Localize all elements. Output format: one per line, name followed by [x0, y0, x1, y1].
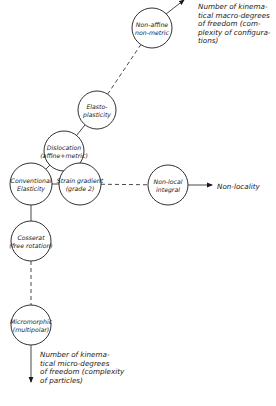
edge-dislocation-to-elasto_plasticity [77, 125, 86, 136]
axis-label-macro: Number of kinema-tical macro-degreesof f… [197, 2, 271, 45]
edge-strain_gradient-to-non_local_integral [101, 184, 148, 185]
node-non-affine: Non-affinenon-metric [132, 8, 172, 48]
node-label: Non-localintegral [154, 178, 183, 194]
node-label: Dislocation(affine+metric) [40, 144, 88, 159]
node-cosserat: Cosserat(free rotation) [9, 221, 53, 261]
edge-elasto_plasticity-to-non_affine [108, 45, 141, 95]
node-label: Elasto-plasticity [82, 103, 111, 119]
edge-conventional_elasticity-to-dislocation [46, 165, 50, 169]
node-conventional-elasticity: ConventionalElasticity [10, 163, 52, 205]
node-elasto-plasticity: Elasto-plasticity [78, 91, 116, 129]
node-non-local-integral: Non-localintegral [148, 165, 188, 205]
axis-label-micro: Number of kinema-tical micro-degreesof f… [40, 350, 125, 385]
axis-label-nonlocality: Non-locality [217, 182, 260, 191]
node-micromorphic: Micromorphic(multipolar) [10, 305, 53, 345]
generalized-continua-diagram: Number of kinema-tical macro-degreesof f… [0, 0, 276, 406]
axis-arrow-macro [166, 0, 184, 14]
node-label: Micromorphic(multipolar) [10, 318, 53, 334]
nodes-layer: Non-affinenon-metricElasto-plasticityDis… [9, 8, 188, 345]
node-label: Non-affinenon-metric [135, 21, 169, 36]
